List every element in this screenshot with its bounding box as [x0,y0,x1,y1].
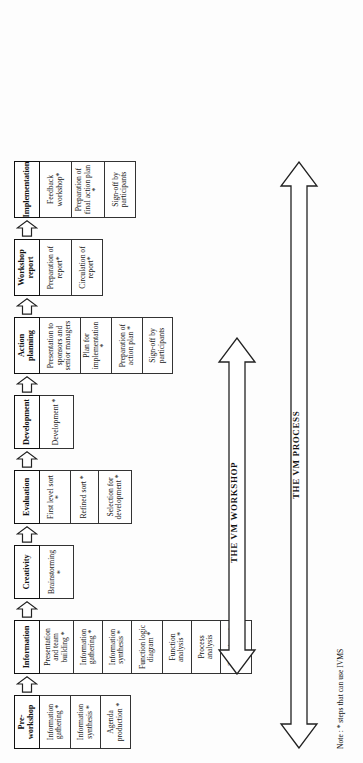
task-item: Sign-off by participants [104,162,135,217]
stage-header-evaluation: Evaluation [14,470,40,524]
stage-evaluation: Evaluation First level sort * Refined so… [14,470,132,524]
flow-arrow-information-to-creativity [16,601,38,618]
stage-workshop-report: Workshop report Preparation of report* C… [14,239,103,296]
stage-header-information: Information [14,620,40,674]
stage-header-workshop-report: Workshop report [14,239,40,296]
rotated-diagram-stage: Pre-workshop Information gathering * Inf… [0,0,363,763]
task-item: Selection for development * [98,471,131,523]
flow-arrow-creativity-to-evaluation [16,526,38,543]
flow-arrow-pre-workshop-to-information [16,676,38,693]
flow-arrow-evaluation-to-development [16,451,38,468]
vm-process-flowchart: Pre-workshop Information gathering * Inf… [0,0,363,763]
task-item: Preparation of action plan * [111,318,142,373]
task-item: Development * [40,396,73,448]
task-item: Agenda production * [100,696,130,748]
task-item: Preparation of report* [40,240,71,295]
stage-header-implementation: Implementation [14,161,40,218]
task-item: Plan for implementation * [80,318,111,373]
stage-header-action-planning: Action planning [14,317,40,374]
stage-development: Development Development * [14,395,74,449]
stage-task-list-creativity: Brainstorming * [40,545,74,599]
stage-header-pre-workshop: Pre-workshop [14,695,40,749]
flow-arrow-development-to-action-planning [16,376,38,393]
span-arrow-label-vm-process: THE VM PROCESS [291,411,301,499]
task-item: Function logic diagram * [131,621,162,673]
task-item: Information gathering * [73,621,102,673]
task-item: Preparation of final action plan * [71,162,104,217]
stage-implementation: Implementation Feedback workshop* Prepar… [14,161,136,218]
task-item: Brainstorming * [40,546,73,598]
task-item: Circulation of report* [71,240,102,295]
task-item: Function analysis * [162,621,191,673]
stage-task-list-workshop-report: Preparation of report* Circulation of re… [40,239,103,296]
stage-creativity: Creativity Brainstorming * [14,545,74,599]
task-item: Presentation to sponsors and senior mana… [40,318,80,373]
flow-arrow-workshop-report-to-implementation [16,220,38,237]
task-item: Information synthesis * [70,696,100,748]
stage-task-list-development: Development * [40,395,74,449]
stage-task-list-evaluation: First level sort * Refined sort * Select… [40,470,132,524]
flow-arrow-action-planning-to-workshop-report [16,298,38,315]
stage-header-creativity: Creativity [14,545,40,599]
stage-task-list-action-planning: Presentation to sponsors and senior mana… [40,317,173,374]
stage-pre-workshop: Pre-workshop Information gathering * Inf… [14,695,131,749]
task-item: Information synthesis * [102,621,131,673]
stage-header-development: Development [14,395,40,449]
footnote-ivms: Note : * steps that can use IVMS [336,649,345,749]
task-item: Information gathering * [40,696,70,748]
task-item: First level sort * [40,471,70,523]
stage-action-planning: Action planning Presentation to sponsors… [14,317,173,374]
task-item: Presentation and team building * [40,621,73,673]
task-item: Sign-off by participants [142,318,172,373]
task-item: Feedback workshop* [40,162,71,217]
span-arrow-vm-process: THE VM PROCESS [278,161,320,749]
span-arrow-vm-workshop: THE VM WORKSHOP [216,337,258,675]
stage-task-list-pre-workshop: Information gathering * Information synt… [40,695,131,749]
stage-task-list-implementation: Feedback workshop* Preparation of final … [40,161,136,218]
span-arrow-label-vm-workshop: THE VM WORKSHOP [229,462,239,563]
task-item: Refined sort * [70,471,98,523]
